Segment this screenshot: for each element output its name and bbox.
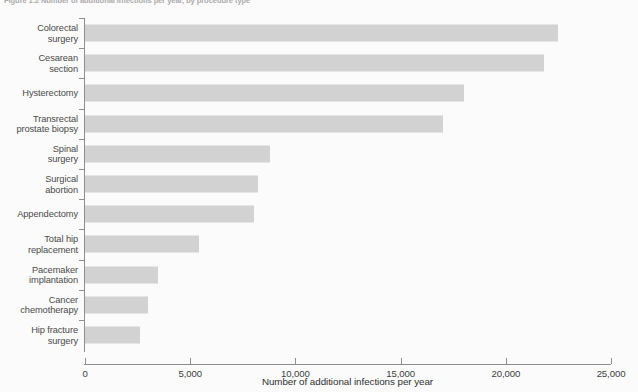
x-axis-tick	[295, 358, 296, 364]
x-axis-tick	[190, 358, 191, 364]
x-axis-tick	[401, 358, 402, 364]
x-axis-tick	[85, 358, 86, 364]
x-axis-title: Number of additional infections per year	[84, 376, 611, 387]
figure-caption: Figure 1.2 Number of additional infectio…	[4, 0, 250, 5]
x-axis-tick	[506, 358, 507, 364]
x-axis-tick	[611, 358, 612, 364]
x-axis-tick-group: 05,00010,00015,00020,00025,000	[0, 12, 638, 372]
